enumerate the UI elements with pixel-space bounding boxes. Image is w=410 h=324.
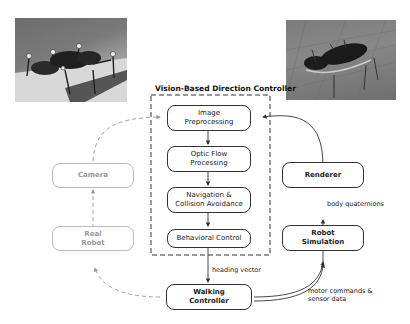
robot-simulation-box: Robot Simulation	[282, 225, 364, 251]
walking-controller-box: Walking Controller	[166, 284, 252, 310]
motor-commands-label: motor commands & sensor data	[308, 287, 373, 303]
navigation-collision-avoidance-box: Navigation & Collision Avoidance	[167, 187, 251, 213]
body-quaternions-label: body quaternions	[327, 200, 384, 208]
optic-flow-processing-box: Optic Flow Processing	[167, 146, 251, 172]
image-preprocessing-box: Image Preprocessing	[167, 105, 251, 131]
renderer-box: Renderer	[282, 162, 364, 188]
controller-title: Vision-Based Direction Controller	[155, 84, 296, 93]
camera-box: Camera	[52, 163, 134, 188]
real-robot-box: Real Robot	[52, 226, 134, 251]
heading-vector-label: heading vector	[212, 266, 261, 274]
behavioral-control-box: Behavioral Control	[167, 229, 251, 248]
